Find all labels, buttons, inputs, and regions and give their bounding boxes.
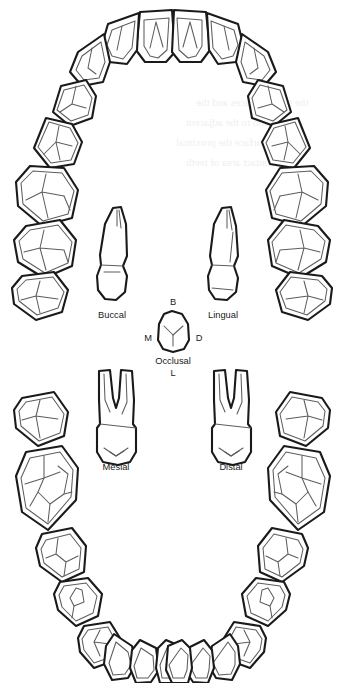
dental-arch-figure: Buccal Lingual B M D Occlusal L bbox=[0, 0, 344, 683]
tooth-view-mesial: Mesial bbox=[97, 370, 136, 472]
tooth-upper-second-premolar-left bbox=[34, 118, 82, 168]
tooth-lower-first-molar-left bbox=[36, 528, 86, 582]
tooth-lower-second-molar-left bbox=[16, 446, 78, 530]
tooth-upper-first-molar-left bbox=[16, 166, 78, 226]
tooth-upper-first-premolar-right bbox=[248, 80, 291, 126]
tooth-upper-first-premolar-left bbox=[53, 80, 96, 126]
orientation-marker-distal: D bbox=[196, 333, 203, 343]
tooth-lower-second-molar-right bbox=[268, 446, 330, 530]
tooth-view-label-distal: Distal bbox=[219, 462, 242, 472]
tooth-upper-central-incisor-right bbox=[172, 10, 210, 62]
tooth-view-occlusal: B M D Occlusal L bbox=[144, 297, 203, 378]
dental-diagram-page: the tooth surfaces and the relation to t… bbox=[0, 0, 344, 683]
tooth-lower-lateral-incisor-left bbox=[130, 640, 159, 683]
tooth-lower-central-incisor-right bbox=[166, 640, 192, 683]
tooth-upper-first-molar-right bbox=[266, 166, 328, 226]
tooth-upper-central-incisor-left bbox=[136, 10, 175, 62]
orientation-marker-mesial: M bbox=[144, 333, 152, 343]
tooth-lower-second-premolar-left bbox=[54, 578, 102, 626]
tooth-view-lingual: Lingual bbox=[208, 207, 238, 320]
tooth-lower-third-molar-right bbox=[276, 392, 330, 446]
orientation-marker-buccal: B bbox=[170, 297, 176, 307]
upper-arch bbox=[12, 10, 332, 320]
tooth-view-label-mesial: Mesial bbox=[103, 462, 130, 472]
tooth-lower-second-premolar-right bbox=[242, 578, 290, 626]
tooth-upper-third-molar-left bbox=[12, 272, 68, 320]
tooth-view-distal: Distal bbox=[212, 370, 251, 472]
orientation-marker-lingual: L bbox=[170, 368, 175, 378]
tooth-lower-third-molar-left bbox=[14, 392, 68, 446]
tooth-view-buccal: Buccal bbox=[97, 207, 127, 320]
tooth-upper-canine-left bbox=[70, 34, 110, 86]
tooth-upper-third-molar-right bbox=[276, 272, 332, 320]
tooth-lower-first-molar-right bbox=[258, 528, 308, 582]
tooth-upper-second-molar-left bbox=[14, 220, 76, 278]
tooth-upper-canine-right bbox=[236, 34, 276, 86]
lower-arch bbox=[14, 392, 330, 683]
tooth-upper-second-molar-right bbox=[268, 220, 330, 278]
tooth-view-label-buccal: Buccal bbox=[98, 310, 126, 320]
tooth-upper-second-premolar-right bbox=[262, 118, 310, 168]
tooth-view-label-occlusal: Occlusal bbox=[155, 356, 191, 366]
tooth-view-label-lingual: Lingual bbox=[208, 310, 238, 320]
